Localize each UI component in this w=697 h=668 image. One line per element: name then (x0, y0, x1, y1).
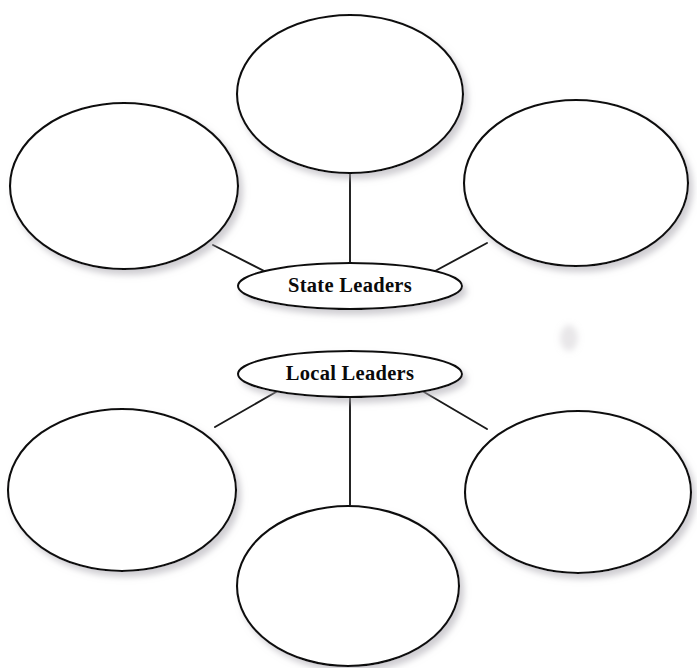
bubble-state-right[interactable] (464, 100, 688, 266)
bubble-state-top[interactable] (237, 15, 463, 173)
concept-map-diagram: State Leaders Local Leaders (0, 0, 697, 668)
connector-local-right (424, 392, 487, 429)
bubble-local-bottom[interactable] (237, 506, 459, 666)
cluster-local-leaders: Local Leaders (8, 351, 691, 666)
hub-state-leaders-label: State Leaders (288, 274, 412, 296)
bubble-local-left[interactable] (8, 409, 236, 571)
hub-local-leaders-label: Local Leaders (286, 362, 415, 384)
smudge-mid-right-icon (560, 325, 578, 351)
bubble-state-left[interactable] (10, 103, 238, 269)
cluster-state-leaders: State Leaders (10, 15, 688, 309)
bubble-local-right[interactable] (465, 411, 691, 573)
worksheet-page: State Leaders Local Leaders (0, 0, 697, 668)
connector-local-left (215, 392, 276, 427)
